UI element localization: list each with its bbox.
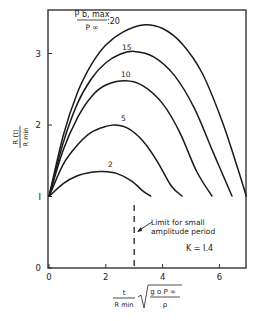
svg-text:R min: R min xyxy=(115,301,134,309)
arrow-head-icon xyxy=(137,227,142,232)
svg-text::20: :20 xyxy=(107,17,120,26)
svg-text:R (t): R (t) xyxy=(12,129,20,145)
curve-label-10: 10 xyxy=(121,70,131,79)
x-tick-label: 2 xyxy=(103,272,108,282)
k-label: K = I.4 xyxy=(186,244,213,253)
curve-label-15: 15 xyxy=(122,43,132,52)
y-axis-label: R (t) R min xyxy=(12,126,30,148)
curve-labels: 251015 xyxy=(108,43,132,169)
curve-label-5: 5 xyxy=(121,114,126,123)
svg-text:P ∞: P ∞ xyxy=(85,23,98,32)
y-tick-label: 0 xyxy=(36,263,41,273)
curve-2 xyxy=(49,171,151,196)
legend-title: P b, max P ∞ :20 xyxy=(75,10,120,32)
limit-label-2: amplitude period xyxy=(151,227,215,236)
curve-20 xyxy=(49,25,246,197)
svg-text:P b, max: P b, max xyxy=(75,10,110,19)
curve-label-2: 2 xyxy=(108,160,113,169)
y-tick-label: 2 xyxy=(36,120,41,130)
chart: 02460I23 251015 Limit for small amplitud… xyxy=(0,0,255,321)
x-axis-label: t R min g o P ∞ ρ xyxy=(113,285,182,309)
svg-text:t: t xyxy=(123,289,126,297)
x-tick-label: 6 xyxy=(217,272,222,282)
svg-text:R min: R min xyxy=(22,128,30,147)
y-tick-label: 3 xyxy=(36,49,41,59)
curves xyxy=(49,25,246,197)
x-tick-label: 4 xyxy=(160,272,165,282)
svg-text:g o P ∞: g o P ∞ xyxy=(150,288,176,296)
x-tick-label: 0 xyxy=(46,272,51,282)
svg-text:ρ: ρ xyxy=(163,301,168,309)
plot-frame xyxy=(48,10,246,268)
curve-10 xyxy=(49,81,212,197)
curve-15 xyxy=(49,51,232,196)
limit-label-1: Limit for small xyxy=(151,218,205,227)
y-tick-label: I xyxy=(38,192,41,202)
